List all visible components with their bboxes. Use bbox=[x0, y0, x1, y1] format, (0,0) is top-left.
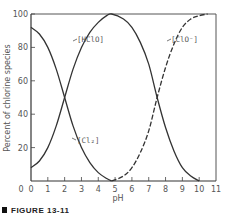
x-tick-label: 1 bbox=[45, 185, 50, 194]
y-tick-label: 20 bbox=[18, 144, 28, 153]
label-cl2-text: [Cl₂] bbox=[77, 136, 100, 145]
caption-marker-icon bbox=[2, 207, 7, 213]
x-axis-ticks: 01234567891011 bbox=[28, 177, 221, 194]
x-tick-label: 4 bbox=[96, 185, 101, 194]
label-hclo: [HClO] bbox=[73, 35, 104, 44]
y-tick-label: 40 bbox=[18, 110, 28, 119]
x-tick-label: 11 bbox=[211, 185, 221, 194]
x-tick-label: 10 bbox=[194, 185, 204, 194]
chlorine-speciation-chart: 01234567891011 020406080100 Percent of c… bbox=[0, 0, 234, 215]
x-tick-label: 8 bbox=[163, 185, 168, 194]
y-tick-label: 100 bbox=[13, 10, 28, 19]
label-clo-text: [ClO⁻] bbox=[171, 35, 198, 44]
label-cl2: [Cl₂] bbox=[72, 136, 100, 145]
x-tick-label: 3 bbox=[79, 185, 84, 194]
y-tick-label: 60 bbox=[18, 77, 28, 86]
curve-cl2 bbox=[31, 27, 112, 181]
y-axis-title: Percent of chlorine species bbox=[3, 44, 12, 151]
label-hclo-text: [HClO] bbox=[77, 35, 104, 44]
x-tick-label: 2 bbox=[62, 185, 67, 194]
y-tick-label: 0 bbox=[18, 185, 23, 194]
caption-text: FIGURE 13-11 bbox=[11, 207, 69, 215]
label-clo: [ClO⁻] bbox=[167, 35, 198, 44]
x-tick-label: 9 bbox=[180, 185, 185, 194]
x-axis-title: pH bbox=[112, 194, 123, 203]
figure-caption: FIGURE 13-11 bbox=[2, 207, 69, 215]
x-tick-label: 6 bbox=[129, 185, 134, 194]
x-tick-label: 7 bbox=[146, 185, 151, 194]
x-tick-label: 0 bbox=[28, 185, 33, 194]
y-tick-label: 80 bbox=[18, 43, 28, 52]
x-tick-label: 5 bbox=[113, 185, 118, 194]
